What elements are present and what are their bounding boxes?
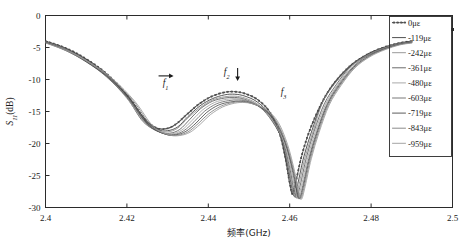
legend-label: -119με <box>408 33 432 43</box>
y-axis-tick-label: -5 <box>33 43 41 53</box>
legend-label: -959με <box>408 139 432 149</box>
data-point-marker <box>310 125 312 127</box>
chart-legend: 0με-119με-242με-361με-480με-603με-719με-… <box>390 17 452 157</box>
data-point-marker <box>214 94 216 96</box>
legend-swatch-marker <box>397 22 399 24</box>
legend-item[interactable]: -603με <box>393 93 433 103</box>
y-axis-tick-label: -15 <box>29 107 41 117</box>
x-axis-title: 频率(GHz) <box>227 227 271 238</box>
data-point-marker <box>290 189 292 191</box>
annotation-label: f3 <box>281 87 287 100</box>
data-point-marker <box>264 105 266 107</box>
data-point-marker <box>261 103 263 105</box>
legend-item[interactable]: -843με <box>393 123 433 133</box>
data-point-marker <box>299 161 301 163</box>
data-point-marker <box>174 124 176 126</box>
legend-swatch-marker <box>400 22 402 24</box>
data-point-marker <box>203 100 205 102</box>
y-axis-tick-label: 0 <box>36 11 41 21</box>
legend-swatch-marker <box>393 22 395 24</box>
data-point-marker <box>247 94 249 96</box>
data-point-marker <box>187 113 189 115</box>
data-point-marker <box>190 110 192 112</box>
data-point-marker <box>287 172 289 174</box>
y-axis-tick-label: -10 <box>29 75 41 85</box>
data-point-marker <box>301 153 303 155</box>
legend-swatch-marker <box>404 22 406 24</box>
data-series-line <box>46 43 412 199</box>
frame-edge-marker <box>451 28 454 31</box>
data-point-marker <box>181 118 183 120</box>
data-point-marker <box>235 91 237 93</box>
data-point-marker <box>306 137 308 139</box>
legend-item[interactable]: -480με <box>393 78 433 88</box>
curves-group <box>45 40 412 199</box>
data-point-marker <box>200 102 202 104</box>
legend-label: 0με <box>408 18 421 28</box>
legend-label: -361με <box>408 63 432 73</box>
legend-item[interactable]: -719με <box>393 108 433 118</box>
data-point-marker <box>227 91 229 93</box>
data-point-marker <box>171 126 173 128</box>
data-point-marker <box>207 98 209 100</box>
data-point-marker <box>193 107 195 109</box>
data-point-marker <box>305 141 307 143</box>
legend-label: -603με <box>408 93 432 103</box>
data-point-marker <box>288 181 290 183</box>
data-point-marker <box>300 157 302 159</box>
chart-svg: 0-5-10-15-20-25-302.42.422.442.462.482.5… <box>0 0 463 247</box>
data-point-marker <box>255 97 257 99</box>
legend-label: -719με <box>408 108 432 118</box>
data-point-marker <box>196 104 198 106</box>
data-point-marker <box>314 117 316 119</box>
y-axis-tick-label: -20 <box>29 139 41 149</box>
data-point-marker <box>298 165 300 167</box>
y-axis-tick-label: -25 <box>29 171 41 181</box>
legend-label: -843με <box>408 123 432 133</box>
data-point-marker <box>211 96 213 98</box>
annotation-f2: f2 <box>224 67 240 81</box>
data-point-marker <box>289 185 291 187</box>
data-point-marker <box>184 116 186 118</box>
x-axis-tick-label: 2.44 <box>200 213 216 223</box>
data-point-marker <box>302 149 304 151</box>
data-point-marker <box>286 168 288 170</box>
chart-figure: 0-5-10-15-20-25-302.42.422.442.462.482.5… <box>0 0 463 247</box>
x-axis-tick-label: 2.42 <box>119 213 135 223</box>
plot-frame <box>46 16 453 208</box>
legend-item[interactable]: -959με <box>393 139 433 149</box>
data-point-marker <box>239 91 241 93</box>
y-axis-title: S11(dB) <box>5 97 18 125</box>
x-axis-tick-label: 2.48 <box>363 213 379 223</box>
data-point-marker <box>312 121 314 123</box>
x-axis-tick-label: 2.4 <box>40 213 52 223</box>
y-axis-tick-label: -30 <box>29 203 41 213</box>
data-point-marker <box>178 121 180 123</box>
arrow-right-head-icon <box>169 74 174 79</box>
legend-label: -480με <box>408 78 432 88</box>
data-point-marker <box>258 100 260 102</box>
annotation-label: f1 <box>163 78 169 91</box>
data-point-marker <box>288 176 290 178</box>
legend-item[interactable]: -361με <box>393 63 433 73</box>
annotation-f3: f3 <box>281 87 287 100</box>
legend-item[interactable]: 0με <box>393 18 421 28</box>
annotation-label: f2 <box>224 67 230 80</box>
x-axis-tick-label: 2.46 <box>282 213 298 223</box>
data-point-marker <box>297 169 299 171</box>
arrow-down-head-icon <box>235 77 240 82</box>
data-point-marker <box>218 93 220 95</box>
data-point-marker <box>297 174 299 176</box>
data-point-marker <box>163 128 165 130</box>
data-point-marker <box>304 145 306 147</box>
data-point-marker <box>309 129 311 131</box>
data-point-marker <box>243 92 245 94</box>
legend-item[interactable]: -242με <box>393 48 433 58</box>
data-point-marker <box>167 127 169 129</box>
annotation-f1: f1 <box>159 74 174 91</box>
svg-text:S11(dB): S11(dB) <box>5 97 18 125</box>
data-point-marker <box>307 133 309 135</box>
legend-label: -242με <box>408 48 432 58</box>
data-point-marker <box>231 91 233 93</box>
legend-item[interactable]: -119με <box>393 33 432 43</box>
